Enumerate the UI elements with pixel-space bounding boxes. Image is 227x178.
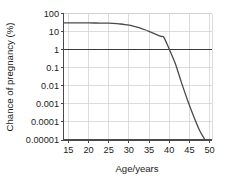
y-tick-label: 0.1 <box>46 63 59 73</box>
x-tick-label: 50 <box>204 145 214 155</box>
x-tick-label: 35 <box>144 145 154 155</box>
y-tick-label: 10 <box>49 27 59 37</box>
y-tick-label: 100 <box>44 9 59 19</box>
x-tick-label: 15 <box>63 145 73 155</box>
x-tick-label: 45 <box>184 145 194 155</box>
y-tick-label: 0.0001 <box>31 117 59 127</box>
x-tick-label: 20 <box>83 145 93 155</box>
pregnancy-chance-chart-figure: 1001010.10.010.0010.00010.00001 15202530… <box>0 0 227 178</box>
y-tick-label: 1 <box>54 45 59 55</box>
chart-canvas: 1001010.10.010.0010.00010.00001 15202530… <box>0 0 227 178</box>
y-tick-label: 0.00001 <box>26 135 59 145</box>
y-tick-label: 0.001 <box>36 99 59 109</box>
x-axis-title: Age/years <box>115 163 158 174</box>
x-tick-label: 40 <box>164 145 174 155</box>
x-tick-label: 25 <box>104 145 114 155</box>
y-axis-title: Chance of pregnancy (%) <box>4 23 15 132</box>
x-tick-label: 30 <box>124 145 134 155</box>
y-tick-label: 0.01 <box>41 81 59 91</box>
